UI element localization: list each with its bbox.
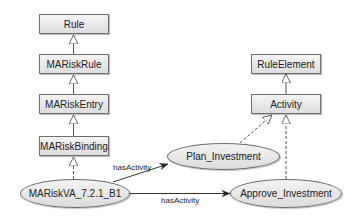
class-mariskbinding[interactable]: MARiskBinding xyxy=(39,136,109,156)
class-rule[interactable]: Rule xyxy=(39,14,109,34)
instance-mariskva[interactable]: MARiskVA_7.2.1_B1 xyxy=(20,179,130,208)
class-mariskrule[interactable]: MARiskRule xyxy=(39,54,109,74)
instance-approve-investment[interactable]: Approve_Investment xyxy=(230,179,342,208)
edge-label-hasactivity-upper: hasActivity xyxy=(113,163,151,172)
class-mariskentry[interactable]: MARiskEntry xyxy=(39,94,109,114)
class-ruleelement[interactable]: RuleElement xyxy=(251,54,321,74)
instance-plan-investment[interactable]: Plan_Investment xyxy=(167,143,280,170)
edge-instance-plan-activity xyxy=(240,115,272,143)
edge-label-hasactivity-lower: hasActivity xyxy=(161,196,199,205)
class-activity[interactable]: Activity xyxy=(251,94,321,114)
